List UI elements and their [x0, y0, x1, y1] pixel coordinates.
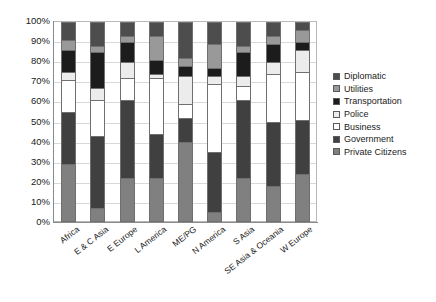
bar-segment[interactable] [266, 62, 281, 74]
bar-segment[interactable] [266, 122, 281, 186]
bar-segment[interactable] [266, 74, 281, 122]
y-axis-tick-label: 70% [4, 76, 50, 86]
bar-segment[interactable] [266, 186, 281, 222]
bar-segment[interactable] [149, 178, 164, 222]
legend-item-label: Business [344, 122, 381, 132]
bar-segment[interactable] [236, 76, 251, 86]
legend-item[interactable]: Private Citizens [333, 146, 433, 159]
bar-column[interactable] [61, 22, 76, 222]
bar-segment[interactable] [178, 104, 193, 118]
y-axis-tick-label: 30% [4, 157, 50, 167]
bar-segment[interactable] [90, 22, 105, 46]
bar-segment[interactable] [61, 80, 76, 112]
bar-segment[interactable] [207, 68, 222, 76]
legend-item-label: Transportation [344, 96, 402, 106]
bar-segment[interactable] [149, 60, 164, 74]
bar-segment[interactable] [90, 100, 105, 136]
chart-legend: DiplomaticUtilitiesTransportationPoliceB… [333, 70, 433, 158]
bar-segment[interactable] [120, 62, 135, 78]
bar-segment[interactable] [236, 100, 251, 178]
bar-segment[interactable] [90, 88, 105, 100]
legend-item[interactable]: Utilities [333, 83, 433, 96]
bar-segment[interactable] [207, 44, 222, 68]
x-axis: AfricaE & C AsiaE EuropeL AmericaME/PGN … [54, 224, 317, 302]
bar-segment[interactable] [207, 76, 222, 84]
bar-segment[interactable] [236, 52, 251, 76]
bar-segment[interactable] [120, 78, 135, 100]
bar-segment[interactable] [207, 212, 222, 222]
bar-segment[interactable] [90, 208, 105, 222]
bar-segment[interactable] [295, 174, 310, 222]
bar-segment[interactable] [120, 100, 135, 178]
stacked-bar-chart: 100%90%80%70%60%50%40%30%20%10%0% Africa… [0, 0, 436, 302]
bar-segment[interactable] [90, 136, 105, 208]
y-axis-tick-label: 20% [4, 177, 50, 187]
y-axis-tick-label: 10% [4, 197, 50, 207]
y-axis: 100%90%80%70%60%50%40%30%20%10%0% [0, 0, 50, 240]
bar-segment[interactable] [236, 22, 251, 46]
legend-item-label: Police [344, 109, 369, 119]
legend-item-label: Diplomatic [344, 71, 386, 81]
y-axis-tick-label: 50% [4, 117, 50, 127]
bar-segment[interactable] [120, 178, 135, 222]
bar-segment[interactable] [266, 44, 281, 62]
y-axis-tick-label: 60% [4, 96, 50, 106]
bar-segment[interactable] [90, 52, 105, 88]
bar-segment[interactable] [61, 72, 76, 80]
bar-segment[interactable] [266, 36, 281, 44]
legend-item[interactable]: Police [333, 108, 433, 121]
bar-segment[interactable] [295, 50, 310, 72]
bar-segment[interactable] [295, 30, 310, 42]
legend-item[interactable]: Transportation [333, 95, 433, 108]
legend-item[interactable]: Diplomatic [333, 70, 433, 83]
legend-swatch-icon [333, 148, 340, 155]
bar-segment[interactable] [178, 22, 193, 58]
bar-segment[interactable] [120, 42, 135, 62]
y-axis-tick-label: 40% [4, 137, 50, 147]
bar-segment[interactable] [61, 22, 76, 40]
bar-segment[interactable] [61, 164, 76, 222]
bar-segment[interactable] [61, 112, 76, 164]
bar-column[interactable] [178, 22, 193, 222]
bar-segment[interactable] [178, 118, 193, 142]
bar-column[interactable] [90, 22, 105, 222]
bar-segment[interactable] [207, 152, 222, 212]
bar-segment[interactable] [149, 22, 164, 36]
bar-segment[interactable] [236, 86, 251, 100]
legend-swatch-icon [333, 85, 340, 92]
bar-segment[interactable] [266, 22, 281, 36]
bar-segment[interactable] [178, 66, 193, 76]
bar-column[interactable] [149, 22, 164, 222]
legend-swatch-icon [333, 98, 340, 105]
legend-swatch-icon [333, 111, 340, 118]
bar-segment[interactable] [149, 36, 164, 60]
bar-segment[interactable] [178, 142, 193, 222]
bar-segment[interactable] [61, 40, 76, 50]
bar-column[interactable] [236, 22, 251, 222]
bar-segment[interactable] [295, 22, 310, 30]
bar-segment[interactable] [178, 76, 193, 104]
bar-column[interactable] [207, 22, 222, 222]
x-axis-tick-label: Africa [57, 224, 80, 245]
bar-segment[interactable] [207, 84, 222, 152]
bar-segment[interactable] [149, 134, 164, 178]
legend-item[interactable]: Business [333, 120, 433, 133]
legend-item[interactable]: Government [333, 133, 433, 146]
legend-swatch-icon [333, 73, 340, 80]
x-axis-tick-label: L America [133, 224, 169, 255]
bar-column[interactable] [266, 22, 281, 222]
bar-column[interactable] [295, 22, 310, 222]
bar-segment[interactable] [295, 72, 310, 120]
bar-segment[interactable] [236, 178, 251, 222]
bar-segment[interactable] [120, 22, 135, 36]
bar-segment[interactable] [61, 50, 76, 72]
y-axis-tick-label: 100% [4, 16, 50, 26]
bar-segment[interactable] [207, 22, 222, 44]
bar-segment[interactable] [295, 120, 310, 174]
bar-segment[interactable] [178, 58, 193, 66]
bar-segment[interactable] [295, 42, 310, 50]
legend-item-label: Private Citizens [344, 147, 407, 157]
bar-segment[interactable] [149, 78, 164, 134]
bar-column[interactable] [120, 22, 135, 222]
y-axis-tick-label: 0% [4, 217, 50, 227]
